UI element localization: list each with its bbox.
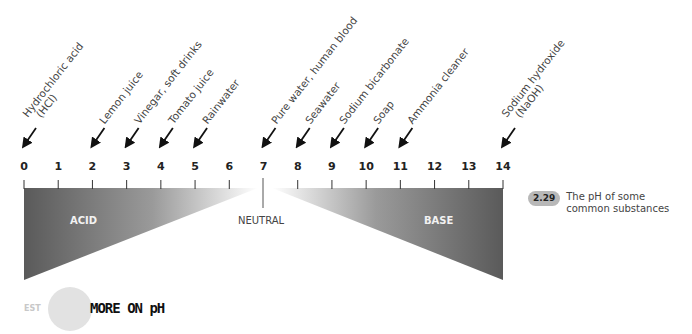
base-label: BASE (424, 215, 453, 226)
substance-arrows (25, 128, 515, 144)
tick-label: 13 (461, 160, 476, 173)
tick-label: 5 (191, 160, 199, 173)
acid-wedge (24, 188, 258, 280)
est-label: EST (24, 304, 46, 313)
circle-decoration-icon (48, 287, 92, 331)
tick-label: 8 (294, 160, 302, 173)
neutral-label: NEUTRAL (238, 215, 284, 226)
base-wedge (272, 188, 503, 280)
ph-scale-figure: 01234567891011121314 Hydrochloric acid(H… (0, 0, 692, 334)
tick-label: 10 (358, 160, 373, 173)
tick-label: 1 (54, 160, 62, 173)
tick-label: 7 (260, 160, 268, 173)
figure-number-badge: 2.29 (528, 191, 560, 206)
tick-label: 11 (393, 160, 408, 173)
more-on-ph-heading[interactable]: MORE ON pH (90, 300, 164, 316)
tick-label: 3 (123, 160, 131, 173)
more-on-ph-section[interactable]: EST MORE ON pH (24, 300, 120, 316)
tick-label: 12 (427, 160, 442, 173)
tick-label: 9 (328, 160, 336, 173)
tick-label: 0 (20, 160, 28, 173)
caption-text: The pH of some common substances (566, 191, 676, 215)
acid-label: ACID (70, 215, 97, 226)
tick-label: 14 (495, 160, 510, 173)
figure-caption: 2.29 The pH of some common substances (528, 191, 676, 215)
tick-label: 6 (225, 160, 233, 173)
tick-label: 4 (157, 160, 165, 173)
tick-label: 2 (89, 160, 97, 173)
ph-scale-graphic (0, 0, 692, 334)
